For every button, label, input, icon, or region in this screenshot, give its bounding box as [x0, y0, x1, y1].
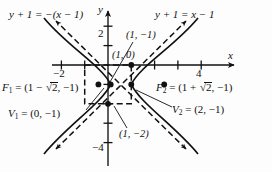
radical-bar	[50, 82, 58, 83]
focus-1-tail: , −1)	[58, 81, 79, 93]
asymptote-left-label: y + 1 = −(x − 1)	[9, 9, 83, 20]
vertex-2-symbol: V	[172, 103, 179, 115]
leader-bottom-point	[114, 106, 127, 128]
marker-point-1-0	[128, 62, 134, 68]
focus-2-equals: = (1 +	[166, 81, 199, 93]
focus-2-label: F2 = (1 + √2, −1)	[156, 82, 232, 95]
marker-vertex-v2	[128, 82, 134, 88]
marker-point-1-neg2	[105, 101, 111, 107]
vertex-1-label: V1 = (0, −1)	[8, 108, 60, 121]
y-axis-label: y	[98, 4, 103, 15]
vertex-1-symbol: V	[8, 107, 15, 119]
focus-1-radical: √2	[45, 81, 58, 93]
y-tick-label-neg4: −4	[92, 142, 104, 153]
vertex-1-coords: = (0, −1)	[18, 107, 60, 119]
radical-bar	[204, 82, 212, 83]
center-point-label: (1, −1)	[126, 30, 156, 41]
top-point-label: (1, 0)	[112, 50, 135, 61]
x-tick-label-4: 4	[196, 68, 202, 79]
focus-1-symbol: F	[2, 81, 9, 93]
marker-vertex-v1	[108, 82, 114, 88]
focus-1-label: F1 = (1 − √2, −1)	[2, 82, 78, 95]
asymptote-right-label: y + 1 = x − 1	[155, 9, 215, 20]
y-tick-label-2: 2	[98, 28, 104, 39]
x-tick-label-neg2: −2	[53, 68, 65, 79]
vertex-2-coords: = (2, −1)	[182, 103, 224, 115]
focus-2-symbol: F	[156, 81, 163, 93]
focus-2-tail: , −1)	[212, 81, 233, 93]
hyperbola-figure: y + 1 = −(x − 1) y + 1 = x − 1 (1, −1) (…	[0, 0, 272, 172]
focus-2-radicand: 2	[206, 81, 212, 93]
focus-2-radical: √2	[199, 81, 212, 93]
x-axis-label: x	[228, 50, 233, 61]
vertex-2-label: V2 = (2, −1)	[172, 104, 224, 117]
focus-1-radicand: 2	[52, 81, 58, 93]
bottom-point-label: (1, −2)	[119, 129, 149, 140]
focus-1-equals: = (1 −	[12, 81, 45, 93]
marker-focus-f1	[96, 82, 102, 88]
leader-vertex1	[86, 88, 104, 110]
